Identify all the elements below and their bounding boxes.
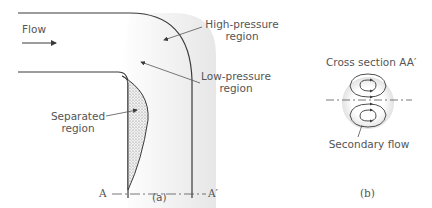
- pipe-bend: [18, 13, 216, 208]
- low-pressure-label: Low-pressure region: [198, 70, 274, 94]
- section-label-a-prime: A′: [208, 187, 218, 199]
- separated-line2: region: [50, 122, 106, 134]
- separated-label: Separated region: [50, 110, 106, 134]
- high-pressure-line1: High-pressure: [203, 18, 281, 30]
- inner-wall: [18, 72, 128, 198]
- cross-section-title: Cross section AA′: [326, 56, 412, 68]
- section-label-a: A: [99, 187, 107, 199]
- caption-a: (a): [152, 191, 167, 203]
- caption-b: (b): [360, 187, 375, 199]
- flow-label: Flow: [22, 23, 46, 35]
- high-pressure-label: High-pressure region: [203, 18, 281, 42]
- low-pressure-line1: Low-pressure: [198, 70, 274, 82]
- cross-section: [326, 74, 412, 137]
- high-pressure-line2: region: [203, 30, 281, 42]
- secondary-flow-label: Secondary flow: [326, 138, 412, 150]
- low-pressure-line2: region: [198, 82, 274, 94]
- separated-line1: Separated: [50, 110, 106, 122]
